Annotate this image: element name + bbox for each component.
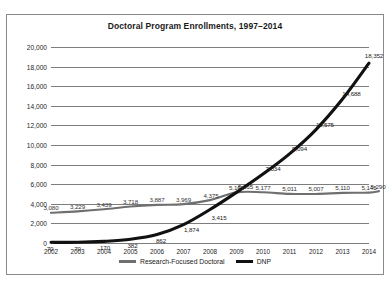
- chart-card: Doctoral Program Enrollments, 1997–2014 …: [6, 14, 384, 275]
- y-axis-tick-label: 14,000: [27, 102, 47, 109]
- x-axis-tick-label: 2007: [176, 248, 190, 255]
- data-label-research-focused-doctoral: 3,229: [70, 202, 85, 209]
- data-label-research-focused-doctoral-end: 5,290: [371, 183, 386, 190]
- y-axis-tick-label: 20,000: [27, 44, 47, 51]
- x-axis-tick-label: 2014: [362, 248, 376, 255]
- x-axis-tick-label: 2010: [256, 248, 270, 255]
- data-label-research-focused-doctoral: 3,969: [176, 195, 191, 202]
- chart-title: Doctoral Program Enrollments, 1997–2014: [7, 21, 383, 31]
- data-label-research-focused-doctoral: 3,887: [150, 196, 165, 203]
- x-axis-tick-label: 2005: [123, 248, 137, 255]
- y-axis-tick-label: 6,000: [30, 181, 47, 188]
- data-label-dnp: 7,034: [266, 165, 281, 172]
- legend-item-label: DNP: [257, 258, 271, 265]
- data-label-research-focused-doctoral: 3,439: [97, 200, 112, 207]
- x-axis-tick-label: 2009: [229, 248, 243, 255]
- data-label-research-focused-doctoral: 5,110: [335, 184, 350, 191]
- x-axis-tick-label: 2011: [283, 248, 297, 255]
- gray-line-swatch-icon: [119, 260, 136, 262]
- y-axis-tick-label: 8,000: [30, 161, 47, 168]
- plot-area: 02,0004,0006,0008,00010,00012,00014,0001…: [51, 47, 369, 243]
- data-label-dnp: 862: [156, 236, 166, 243]
- data-label-dnp: 9,094: [292, 144, 307, 151]
- black-line-swatch-icon: [236, 260, 253, 263]
- data-label-research-focused-doctoral: 3,718: [123, 198, 138, 205]
- data-label-dnp: 70: [47, 245, 54, 252]
- data-label-research-focused-doctoral: 3,080: [44, 204, 59, 211]
- y-axis-tick-label: 10,000: [27, 142, 47, 149]
- y-axis-tick-label: 18,000: [27, 63, 47, 70]
- data-label-dnp: 11,575: [316, 120, 334, 127]
- x-axis-tick-label: 2013: [335, 248, 349, 255]
- data-label-research-focused-doctoral: 4,375: [204, 191, 219, 198]
- legend-item[interactable]: Research-Focused Doctoral: [119, 258, 225, 265]
- y-axis-tick-label: 12,000: [27, 122, 47, 129]
- data-label-research-focused-doctoral: 5,007: [309, 185, 324, 192]
- x-axis-tick-label: 2012: [309, 248, 323, 255]
- line-dnp: [51, 63, 369, 242]
- y-axis-tick-label: 16,000: [27, 83, 47, 90]
- legend-item-label: Research-Focused Doctoral: [140, 258, 225, 265]
- data-label-dnp: 3,415: [212, 213, 227, 220]
- data-label-dnp: 18,352: [365, 52, 383, 59]
- data-label-research-focused-doctoral: 5,177: [256, 183, 271, 190]
- data-label-dnp: 5,165: [238, 183, 253, 190]
- series-lines: [51, 47, 369, 243]
- data-label-research-focused-doctoral: 5,011: [282, 185, 297, 192]
- y-axis-tick-label: 2,000: [30, 220, 47, 227]
- x-axis-tick-label: 2008: [203, 248, 217, 255]
- data-label-dnp: 170: [100, 244, 110, 251]
- data-label-dnp: 70: [74, 245, 81, 252]
- data-label-dnp: 14,688: [342, 90, 360, 97]
- legend-item[interactable]: DNP: [236, 258, 271, 265]
- data-label-dnp: 1,874: [184, 225, 199, 232]
- legend: Research-Focused DoctoralDNP: [7, 258, 383, 265]
- data-label-dnp: 382: [127, 242, 137, 249]
- x-axis-tick-label: 2006: [150, 248, 164, 255]
